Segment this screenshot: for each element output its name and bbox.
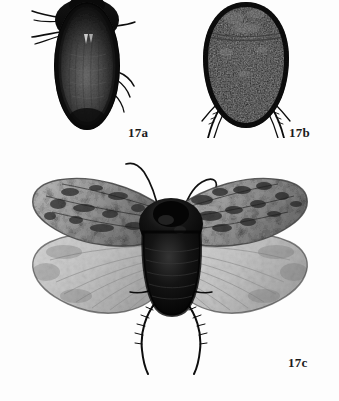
specimen-17a — [30, 0, 140, 138]
figure-label-17c: 17c — [288, 355, 307, 371]
figure-label-17b: 17b — [289, 125, 310, 141]
hindleg-left-17c — [142, 302, 156, 374]
hindleg-right-17c — [186, 302, 200, 374]
figure-plate: 17a 17b 17c — [0, 0, 339, 401]
specimen-17b — [196, 0, 296, 138]
specimen-17c — [6, 160, 334, 375]
figure-label-17a: 17a — [128, 125, 148, 141]
